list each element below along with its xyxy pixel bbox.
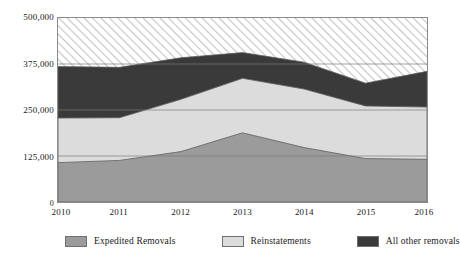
- y-axis-tick-label: 500,000: [2, 12, 54, 22]
- plot-svg: [58, 18, 427, 202]
- legend-swatch-icon: [65, 236, 87, 247]
- x-axis-tick-label: 2011: [110, 207, 128, 217]
- y-axis-tick-label: 125,000: [2, 152, 54, 162]
- x-axis-tick-label: 2015: [357, 207, 376, 217]
- x-axis-tick-label: 2013: [233, 207, 252, 217]
- legend-swatch-icon: [222, 236, 244, 247]
- x-axis: 2010201120122013201420152016: [57, 207, 428, 225]
- x-axis-tick-label: 2012: [171, 207, 190, 217]
- legend-label: All other removals: [386, 236, 460, 246]
- chart-legend: Expedited Removals Reinstatements All ot…: [57, 232, 428, 250]
- plot-area: [57, 17, 428, 203]
- legend-item-all-other-removals: All other removals: [357, 236, 460, 247]
- y-axis-tick-label: 0: [2, 199, 54, 208]
- y-axis-tick-label: 375,000: [2, 59, 54, 69]
- legend-item-reinstatements: Reinstatements: [222, 236, 311, 247]
- y-axis: 0125,000250,000375,000500,000: [0, 0, 54, 263]
- y-axis-tick-label: 250,000: [2, 105, 54, 115]
- legend-item-expedited-removals: Expedited Removals: [65, 236, 176, 247]
- legend-label: Expedited Removals: [94, 236, 176, 246]
- x-axis-tick-label: 2010: [52, 207, 71, 217]
- legend-label: Reinstatements: [251, 236, 311, 246]
- legend-swatch-icon: [357, 236, 379, 247]
- x-axis-tick-label: 2016: [415, 207, 434, 217]
- x-axis-tick-label: 2014: [295, 207, 314, 217]
